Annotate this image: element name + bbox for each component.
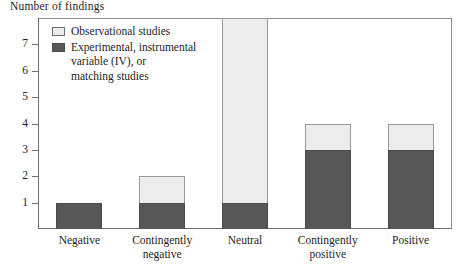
x-axis-category-labels: NegativeContingentlynegativeNeutralConti…	[38, 233, 452, 273]
chart-figure: Number of findings 1234567 NegativeConti…	[0, 0, 463, 274]
x-axis-label: Positive	[369, 233, 452, 247]
y-axis-tick	[32, 97, 39, 98]
bar-segment-experimental	[139, 203, 185, 229]
bar-group	[305, 18, 351, 229]
x-axis-label: Contingentlypositive	[286, 233, 369, 261]
y-axis-tick-labels: 1234567	[0, 0, 28, 274]
legend-item: Observational studies	[52, 24, 267, 39]
x-axis-label: Contingentlynegative	[121, 233, 204, 261]
y-axis-tick	[32, 44, 39, 45]
x-axis-label: Negative	[38, 233, 121, 247]
y-axis-tick-label: 6	[6, 65, 28, 77]
bar-segment-observational	[305, 124, 351, 150]
y-axis-tick-label: 4	[6, 118, 28, 130]
y-axis-tick-label: 5	[6, 91, 28, 103]
y-axis-tick-label: 2	[6, 170, 28, 182]
legend-swatch-experimental-icon	[52, 43, 65, 52]
y-axis-tick-label: 3	[6, 144, 28, 156]
legend-item: Experimental, instrumentalvariable (IV),…	[52, 40, 267, 84]
bar-stack	[305, 124, 351, 230]
legend-label: Observational studies	[71, 24, 170, 39]
y-axis-tick	[32, 150, 39, 151]
chart-legend: Observational studiesExperimental, instr…	[52, 24, 267, 84]
legend-swatch-observational-icon	[52, 27, 65, 36]
bar-segment-observational	[388, 124, 434, 150]
y-axis-tick	[32, 203, 39, 204]
bar-segment-experimental	[56, 203, 102, 229]
y-axis-tick	[32, 176, 39, 177]
legend-label: Experimental, instrumentalvariable (IV),…	[71, 40, 196, 84]
bar-stack	[388, 124, 434, 230]
y-axis-tick	[32, 124, 39, 125]
bar-segment-experimental	[305, 150, 351, 229]
bar-group	[388, 18, 434, 229]
y-axis-tick-label: 1	[6, 197, 28, 209]
bar-segment-experimental	[222, 203, 268, 229]
bar-stack	[56, 203, 102, 229]
bar-stack	[139, 176, 185, 229]
bar-segment-experimental	[388, 150, 434, 229]
x-axis-label: Neutral	[204, 233, 287, 247]
y-axis-tick	[32, 71, 39, 72]
bar-segment-observational	[139, 176, 185, 202]
y-axis-tick-label: 7	[6, 38, 28, 50]
